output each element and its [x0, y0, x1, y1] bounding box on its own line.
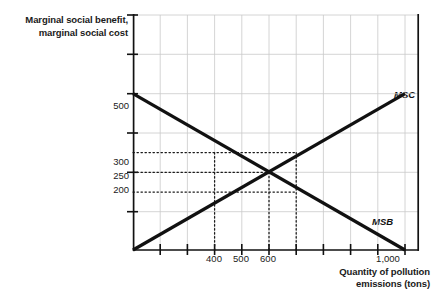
figure-economics-externality-chart: Marginal social benefit, marginal social…: [0, 0, 434, 302]
chart-plot-svg: [0, 0, 434, 302]
grid-lines-horizontal: [133, 15, 419, 212]
axis-tick-marks-y: [127, 15, 138, 212]
